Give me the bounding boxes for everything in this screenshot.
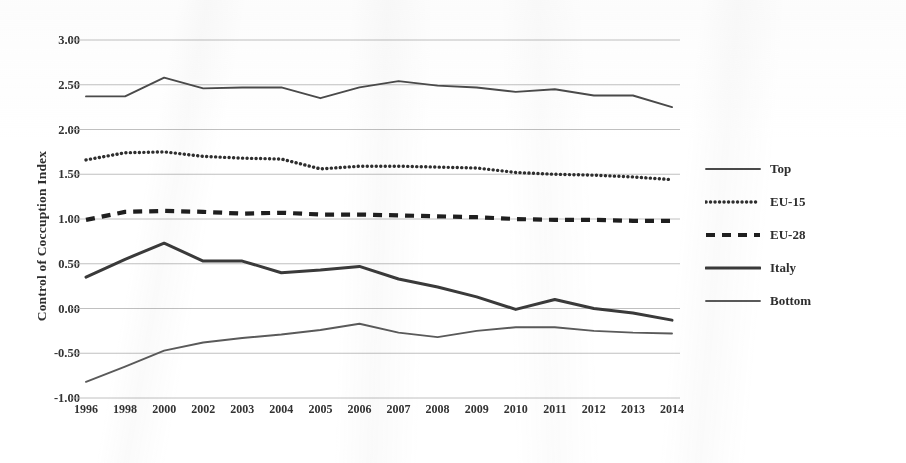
x-axis-tick-label: 2013 — [621, 402, 645, 417]
x-axis-tick-label: 2005 — [308, 402, 332, 417]
legend-swatch-icon — [705, 295, 761, 307]
x-axis-tick-label: 2008 — [426, 402, 450, 417]
legend-item-eu-15[interactable]: EU-15 — [705, 185, 895, 218]
x-axis-tick-label: 2012 — [582, 402, 606, 417]
x-axis-tick-labels: 1996199820002002200320042005200620072008… — [86, 402, 672, 424]
legend-item-top[interactable]: Top — [705, 152, 895, 185]
x-axis-tick-label: 2003 — [230, 402, 254, 417]
legend-label: EU-28 — [770, 227, 805, 243]
data-series-group — [86, 78, 672, 382]
series-line-eu-15 — [86, 152, 672, 180]
legend-label: Top — [770, 161, 791, 177]
legend-label: Bottom — [770, 293, 811, 309]
legend-item-italy[interactable]: Italy — [705, 251, 895, 284]
legend-item-bottom[interactable]: Bottom — [705, 284, 895, 317]
x-axis-tick-label: 2006 — [347, 402, 371, 417]
legend-swatch-icon — [705, 262, 761, 274]
x-axis-tick-label: 1996 — [74, 402, 98, 417]
x-axis-tick-label: 2014 — [660, 402, 684, 417]
x-axis-tick-label: 2011 — [543, 402, 566, 417]
legend-item-eu-28[interactable]: EU-28 — [705, 218, 895, 251]
x-axis-tick-label: 2002 — [191, 402, 215, 417]
legend-label: Italy — [770, 260, 796, 276]
legend-swatch-icon — [705, 196, 761, 208]
x-axis-tick-label: 2010 — [504, 402, 528, 417]
x-axis-tick-label: 1998 — [113, 402, 137, 417]
x-axis-tick-label: 2009 — [465, 402, 489, 417]
x-axis-tick-label: 2007 — [387, 402, 411, 417]
legend-label: EU-15 — [770, 194, 805, 210]
chart-legend: TopEU-15EU-28ItalyBottom — [705, 152, 895, 317]
legend-swatch-icon — [705, 229, 761, 241]
x-axis-tick-label: 2004 — [269, 402, 293, 417]
chart-figure: Control of Coccuption Index 3.002.502.00… — [0, 0, 906, 463]
series-line-top — [86, 78, 672, 108]
legend-swatch-icon — [705, 163, 761, 175]
x-axis-tick-label: 2000 — [152, 402, 176, 417]
